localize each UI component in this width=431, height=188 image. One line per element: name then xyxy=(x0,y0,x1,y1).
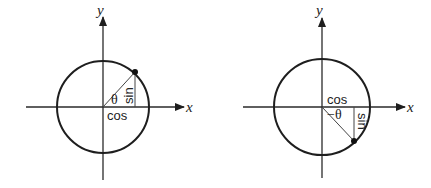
x-axis-label: x xyxy=(185,99,193,115)
unit-circle-figure: x y θ cos sin x y cos −θ sin xyxy=(0,0,431,188)
sin-label: sin xyxy=(121,87,136,104)
diagram-positive-angle: x y θ cos sin xyxy=(26,2,193,180)
cos-label: cos xyxy=(327,92,348,107)
angle-label: θ xyxy=(111,92,118,107)
angle-label: −θ xyxy=(327,107,342,122)
diagram-negative-angle: x y cos −θ sin xyxy=(243,2,414,178)
y-axis-label: y xyxy=(314,2,323,18)
cos-label: cos xyxy=(107,108,128,123)
sin-label: sin xyxy=(355,113,370,130)
y-axis-label: y xyxy=(95,2,104,18)
point-on-circle xyxy=(351,138,357,144)
point-on-circle xyxy=(132,69,138,75)
x-axis-label: x xyxy=(406,99,414,115)
